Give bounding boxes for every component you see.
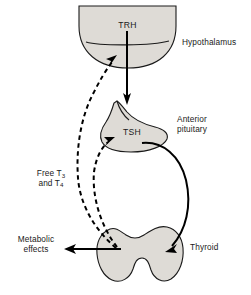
anterior-pituitary-label: Anteriorpituitary	[177, 115, 207, 134]
hypothalamus-label: Hypothalamus	[182, 38, 236, 48]
free-hormones-label: Free T3and T4	[26, 169, 76, 188]
thyroid-label: Thyroid	[190, 243, 218, 253]
anterior-pituitary-label-line2: pituitary	[177, 124, 207, 134]
t4-subscript: 4	[60, 181, 64, 188]
metabolic-effects-line1: Metabolic	[18, 234, 54, 244]
free-t4-text: and T	[38, 178, 60, 188]
free-t3-text: Free T	[37, 168, 62, 178]
anterior-pituitary-label-line1: Anterior	[177, 114, 207, 124]
metabolic-effects-line2: effects	[24, 244, 49, 254]
thyroid-shape	[97, 227, 183, 282]
t3-subscript: 3	[62, 172, 66, 179]
tsh-label: TSH	[111, 128, 153, 138]
trh-label: TRH	[105, 21, 150, 31]
thyroid-axis-diagram: TRH Hypothalamus TSH Anteriorpituitary F…	[0, 0, 251, 295]
feedback-hypothalamus-curve	[78, 62, 116, 248]
metabolic-effects-label: Metaboliceffects	[8, 235, 64, 254]
